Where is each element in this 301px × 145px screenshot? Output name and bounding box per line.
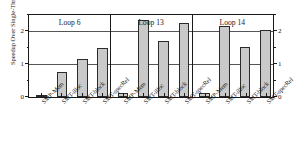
y-tick-label-left-0: 0 xyxy=(21,94,25,101)
group-title-loop-13: Loop 13 xyxy=(110,18,191,27)
y-axis-title: Speedup Over Single-Thread Execution xyxy=(8,0,18,65)
y-tick-right-minor-1-5 xyxy=(273,47,276,48)
group-title-loop-14: Loop 14 xyxy=(192,18,273,27)
bar-series xyxy=(29,15,273,97)
y-tick-right-minor-0-5 xyxy=(273,80,276,81)
y-tick-right-2 xyxy=(273,30,277,31)
x-axis-labels: SMP-MemSMT-illocSMT-blockSMT-specRelSMP-… xyxy=(28,98,274,145)
bar-chart: Speedup Over Single-Thread Execution 0 1… xyxy=(0,0,301,145)
group-title-loop-6: Loop 6 xyxy=(29,18,110,27)
y-tick-label-right-1: 1 xyxy=(278,61,282,68)
y-tick-label-left-1: 1 xyxy=(21,61,25,68)
y-tick-label-right-2: 2 xyxy=(278,28,282,35)
y-tick-label-left-2: 2 xyxy=(21,28,25,35)
y-tick-right-1 xyxy=(273,63,277,64)
y-tick-right-minor-2-5 xyxy=(273,14,276,15)
